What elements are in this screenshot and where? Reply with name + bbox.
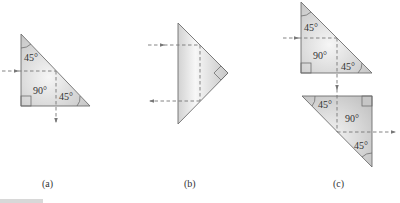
angle-label: 90° — [345, 113, 359, 124]
prism-b — [178, 23, 228, 124]
prism-a — [21, 34, 90, 106]
angle-label: 45° — [354, 140, 368, 151]
caption-b: (b) — [184, 178, 196, 190]
angle-label: 45° — [341, 61, 355, 72]
caption-c: (c) — [333, 178, 344, 190]
panel-c: 45° 90° 45° 45° 90° 45° (c) — [283, 2, 395, 190]
angle-label: 45° — [318, 99, 332, 110]
caption-a: (a) — [42, 178, 53, 190]
panel-a: 45° 90° 45° (a) — [2, 34, 90, 190]
angle-label: 45° — [59, 91, 73, 102]
angle-label: 45° — [24, 52, 38, 63]
prism-diagram: 45° 90° 45° (a) (b) 45° 90° 45° 45° 90° … — [0, 0, 400, 203]
decorative-bar — [0, 199, 43, 203]
angle-label: 90° — [313, 50, 327, 61]
angle-label: 90° — [33, 85, 47, 96]
angle-label: 45° — [304, 22, 318, 33]
panel-b: (b) — [148, 23, 228, 190]
prism-c-upper — [301, 2, 372, 73]
